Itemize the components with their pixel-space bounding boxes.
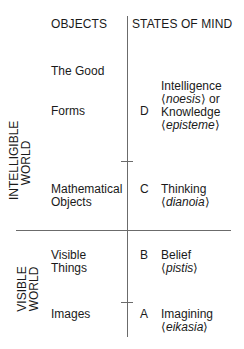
object-the-good: The Good bbox=[51, 65, 104, 78]
state-a-line2: ⟨eikasia⟩ bbox=[161, 321, 213, 334]
state-letter-a: A bbox=[140, 308, 148, 321]
state-thinking: Thinking ⟨dianoia⟩ bbox=[161, 183, 210, 209]
term-dianoia: dianoia bbox=[166, 195, 205, 209]
object-forms: Forms bbox=[51, 105, 85, 118]
term-episteme: episteme bbox=[166, 118, 215, 132]
state-d-or: or bbox=[209, 92, 220, 106]
objects-header: OBJECTS bbox=[51, 18, 107, 31]
object-mathematical-objects: Mathematical Objects bbox=[51, 183, 122, 209]
states-header: STATES OF MIND bbox=[132, 18, 232, 31]
intelligible-label-line2: WORLD bbox=[20, 126, 32, 200]
object-math-line2: Objects bbox=[51, 196, 122, 209]
visible-world-label: VISIBLE WORLD bbox=[16, 265, 40, 313]
intelligible-world-label: INTELLIGIBLE WORLD bbox=[8, 126, 32, 200]
intelligible-subdivision-tick bbox=[121, 161, 133, 162]
object-visible-things: Visible Things bbox=[51, 249, 87, 275]
object-images: Images bbox=[51, 308, 90, 321]
term-noesis: noesis bbox=[166, 92, 201, 106]
visible-subdivision-tick bbox=[121, 302, 133, 303]
state-letter-d: D bbox=[140, 105, 149, 118]
world-divider bbox=[16, 230, 231, 231]
state-letter-c: C bbox=[140, 183, 149, 196]
state-imagining: Imagining ⟨eikasia⟩ bbox=[161, 308, 213, 334]
visible-label-line2: WORLD bbox=[28, 265, 40, 313]
object-visible-line2: Things bbox=[51, 262, 87, 275]
state-b-line2: ⟨pistis⟩ bbox=[161, 262, 198, 275]
term-pistis: pistis bbox=[166, 261, 193, 275]
term-eikasia: eikasia bbox=[166, 320, 203, 334]
state-letter-b: B bbox=[140, 249, 148, 262]
state-c-line2: ⟨dianoia⟩ bbox=[161, 196, 210, 209]
state-intelligence: Intelligence ⟨noesis⟩ or Knowledge ⟨epis… bbox=[161, 80, 222, 132]
vertical-divider bbox=[127, 16, 128, 337]
state-d-line4: ⟨episteme⟩ bbox=[161, 119, 222, 132]
state-belief: Belief ⟨pistis⟩ bbox=[161, 249, 198, 275]
